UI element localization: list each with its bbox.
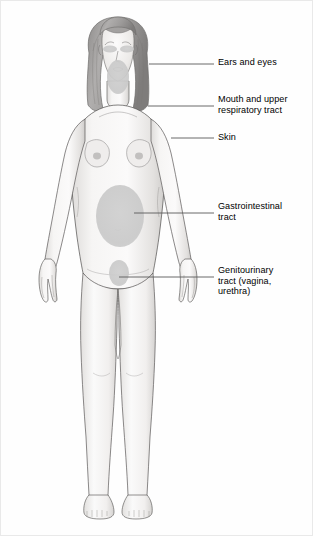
highlight-gastrointestinal-abdomen bbox=[96, 185, 144, 247]
highlight-genitourinary-pelvis bbox=[109, 260, 129, 286]
highlight-mouth-and-throat bbox=[107, 60, 129, 94]
label-skin: Skin bbox=[218, 132, 236, 143]
label-genitourinary-tract: Genitourinary tract (vagina, urethra) bbox=[218, 265, 273, 297]
legs bbox=[81, 273, 156, 507]
highlight-eye-left bbox=[103, 45, 117, 52]
diagram-container: Ears and eyes Mouth and upper respirator… bbox=[0, 0, 313, 536]
highlight-eye-right bbox=[120, 45, 134, 52]
label-mouth-and-upper-respiratory-tract: Mouth and upper respiratory tract bbox=[218, 94, 288, 115]
label-gastrointestinal-tract: Gastrointestinal tract bbox=[218, 201, 282, 222]
label-ears-and-eyes: Ears and eyes bbox=[218, 57, 277, 68]
feet bbox=[84, 495, 153, 519]
